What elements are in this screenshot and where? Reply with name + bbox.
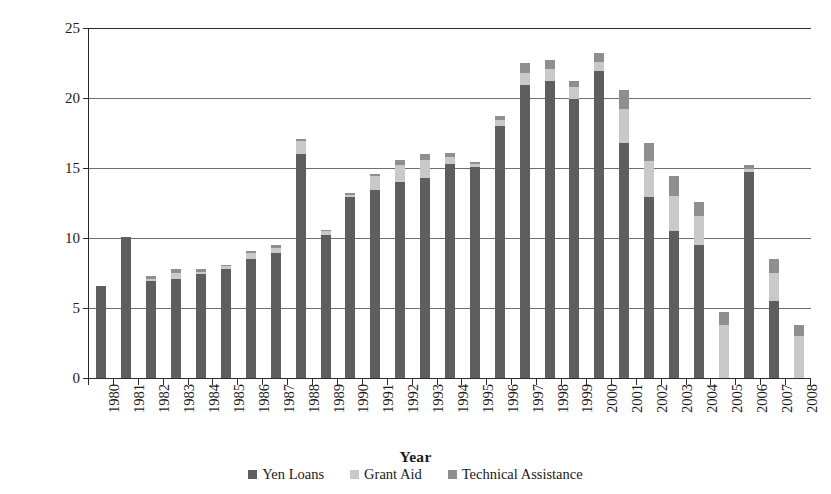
- bar-group[interactable]: [495, 116, 505, 378]
- bar-segment[interactable]: [345, 197, 355, 378]
- bar-segment[interactable]: [246, 259, 256, 378]
- x-axis-tick-label: 1998: [555, 384, 572, 444]
- x-axis-tick-label: 1990: [355, 384, 372, 444]
- y-axis-tick-label: 20: [46, 90, 80, 107]
- bar-group[interactable]: [196, 269, 206, 378]
- bar-group[interactable]: [246, 251, 256, 378]
- bar-segment[interactable]: [594, 62, 604, 72]
- bar-segment[interactable]: [545, 81, 555, 378]
- bar-segment[interactable]: [420, 160, 430, 178]
- bar-segment[interactable]: [395, 182, 405, 378]
- bar-segment[interactable]: [420, 178, 430, 378]
- bar-segment[interactable]: [644, 143, 654, 161]
- bar-segment[interactable]: [769, 259, 779, 273]
- bar-segment[interactable]: [669, 231, 679, 378]
- bar-group[interactable]: [569, 81, 579, 378]
- bar-group[interactable]: [96, 286, 106, 378]
- bar-group[interactable]: [520, 63, 530, 378]
- bar-group[interactable]: [221, 265, 231, 378]
- bar-group[interactable]: [395, 160, 405, 378]
- y-axis-tick: [83, 168, 89, 169]
- bar-segment[interactable]: [296, 154, 306, 378]
- legend-item[interactable]: Yen Loans: [248, 466, 324, 483]
- bar-group[interactable]: [594, 53, 604, 378]
- bar-segment[interactable]: [520, 73, 530, 86]
- bar-group[interactable]: [171, 269, 181, 378]
- x-axis-tick-label: 1997: [530, 384, 547, 444]
- bar-segment[interactable]: [96, 286, 106, 378]
- bar-segment[interactable]: [644, 197, 654, 378]
- bar-segment[interactable]: [520, 85, 530, 378]
- y-axis-tick-label: 10: [46, 230, 80, 247]
- x-axis-tick-label: 1994: [455, 384, 472, 444]
- bar-segment[interactable]: [769, 273, 779, 301]
- y-axis-tick-label: 25: [46, 20, 80, 37]
- bar-segment[interactable]: [146, 281, 156, 378]
- bar-group[interactable]: [619, 90, 629, 378]
- bar-segment[interactable]: [121, 237, 131, 378]
- bar-segment[interactable]: [545, 69, 555, 82]
- x-axis-tick-label: 1983: [181, 384, 198, 444]
- bar-segment[interactable]: [196, 274, 206, 378]
- bar-segment[interactable]: [669, 196, 679, 231]
- x-axis-tick-label: 1993: [430, 384, 447, 444]
- bar-segment[interactable]: [644, 161, 654, 197]
- bar-segment[interactable]: [669, 176, 679, 196]
- bar-group[interactable]: [296, 139, 306, 378]
- bar-group[interactable]: [445, 153, 455, 378]
- x-axis-tick-label: 2000: [604, 384, 621, 444]
- bar-group[interactable]: [769, 259, 779, 378]
- legend-item-label: Yen Loans: [262, 466, 324, 483]
- bar-segment[interactable]: [619, 143, 629, 378]
- bar-group[interactable]: [146, 276, 156, 378]
- x-axis-tick-label: 2002: [654, 384, 671, 444]
- bar-segment[interactable]: [296, 141, 306, 154]
- bar-segment[interactable]: [619, 90, 629, 110]
- bar-segment[interactable]: [594, 53, 604, 61]
- bar-group[interactable]: [121, 237, 131, 378]
- bar-group[interactable]: [694, 202, 704, 378]
- bar-segment[interactable]: [395, 165, 405, 182]
- bar-group[interactable]: [744, 165, 754, 378]
- bar-group[interactable]: [271, 245, 281, 378]
- bar-segment[interactable]: [545, 60, 555, 68]
- legend-item[interactable]: Grant Aid: [350, 466, 422, 483]
- bar-group[interactable]: [345, 193, 355, 378]
- y-axis-tick-label: 15: [46, 160, 80, 177]
- bar-group[interactable]: [644, 143, 654, 378]
- bar-group[interactable]: [545, 60, 555, 378]
- legend-item[interactable]: Technical Assistance: [448, 466, 583, 483]
- bar-group[interactable]: [669, 176, 679, 378]
- bar-segment[interactable]: [794, 325, 804, 336]
- bar-segment[interactable]: [370, 176, 380, 190]
- bar-segment[interactable]: [470, 167, 480, 378]
- bar-segment[interactable]: [569, 99, 579, 378]
- bar-segment[interactable]: [719, 312, 729, 325]
- bar-group[interactable]: [794, 325, 804, 378]
- bar-segment[interactable]: [520, 63, 530, 73]
- bar-segment[interactable]: [694, 202, 704, 216]
- bar-segment[interactable]: [744, 172, 754, 378]
- bar-segment[interactable]: [221, 269, 231, 378]
- bar-segment[interactable]: [271, 253, 281, 378]
- bar-segment[interactable]: [794, 336, 804, 378]
- bar-segment[interactable]: [569, 87, 579, 100]
- bar-segment[interactable]: [445, 164, 455, 378]
- bar-group[interactable]: [370, 174, 380, 378]
- bar-group[interactable]: [470, 162, 480, 378]
- bar-segment[interactable]: [321, 235, 331, 378]
- bar-segment[interactable]: [619, 109, 629, 143]
- bar-group[interactable]: [420, 154, 430, 378]
- bar-segment[interactable]: [594, 71, 604, 378]
- x-axis-tick-labels: 1980198119821983198419851986198719881989…: [88, 386, 810, 446]
- bar-segment[interactable]: [719, 325, 729, 378]
- bar-segment[interactable]: [694, 216, 704, 245]
- bar-group[interactable]: [321, 230, 331, 378]
- bar-segment[interactable]: [769, 301, 779, 378]
- bar-segment[interactable]: [445, 157, 455, 164]
- bar-group[interactable]: [719, 312, 729, 378]
- bar-segment[interactable]: [694, 245, 704, 378]
- bar-segment[interactable]: [171, 279, 181, 378]
- bar-segment[interactable]: [370, 190, 380, 378]
- bar-segment[interactable]: [495, 126, 505, 378]
